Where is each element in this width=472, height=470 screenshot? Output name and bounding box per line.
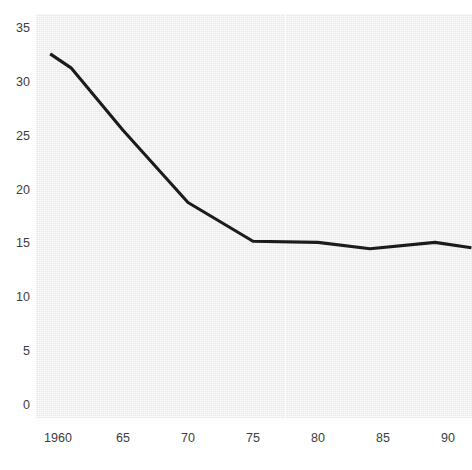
y-tick-label: 5 bbox=[0, 345, 30, 357]
x-tick-label: 65 bbox=[93, 432, 153, 444]
chart-title bbox=[0, 0, 472, 5]
plot-area bbox=[36, 14, 472, 418]
y-tick-label: 10 bbox=[0, 291, 30, 303]
y-tick-label: 15 bbox=[0, 237, 30, 249]
y-tick-label: 30 bbox=[0, 76, 30, 88]
y-tick-label: 35 bbox=[0, 22, 30, 34]
y-tick-label: 25 bbox=[0, 130, 30, 142]
x-tick-label: 1960 bbox=[28, 432, 88, 444]
x-tick-label: 80 bbox=[288, 432, 348, 444]
x-tick-label: 85 bbox=[353, 432, 413, 444]
x-tick-label: 70 bbox=[158, 432, 218, 444]
series-line-svg bbox=[36, 14, 472, 418]
data-line-series-1 bbox=[50, 54, 471, 249]
x-tick-label: 90 bbox=[418, 432, 472, 444]
y-tick-label: 20 bbox=[0, 184, 30, 196]
x-tick-label: 75 bbox=[223, 432, 283, 444]
y-tick-label: 0 bbox=[0, 399, 30, 411]
line-chart-figure: 05101520253035 1960657075808590 bbox=[0, 0, 472, 470]
